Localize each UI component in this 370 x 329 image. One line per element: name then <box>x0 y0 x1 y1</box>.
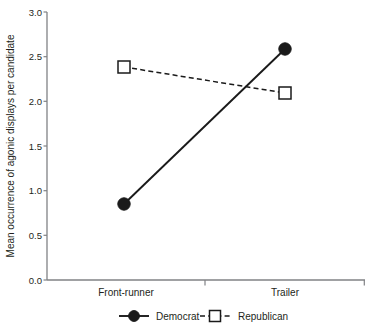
legend-marker-open-square-icon <box>210 311 221 322</box>
series-line-democrat <box>124 49 285 204</box>
line-chart: Mean occurrence of agonic displays per c… <box>0 0 370 329</box>
legend-entry-democrat: Democrat <box>119 311 200 322</box>
series-line-republican <box>124 67 285 93</box>
y-tick-label-0-0: 0.0 <box>29 275 42 286</box>
y-tick-label-0-5: 0.5 <box>29 230 42 241</box>
x-category-label-trailer: Trailer <box>271 287 300 298</box>
y-axis-title: Mean occurrence of agonic displays per c… <box>5 34 16 257</box>
legend-marker-filled-circle-icon <box>129 311 140 322</box>
data-point-republican-front-runner <box>118 61 130 73</box>
x-category-label-front-runner: Front-runner <box>98 287 154 298</box>
data-point-democrat-trailer <box>279 43 291 55</box>
y-tick-label-3-0: 3.0 <box>29 7 42 18</box>
legend-label-democrat: Democrat <box>156 311 200 322</box>
legend-label-republican: Republican <box>238 311 288 322</box>
legend-entry-republican: Republican <box>200 311 288 322</box>
y-tick-label-1-0: 1.0 <box>29 185 42 196</box>
data-point-democrat-front-runner <box>118 198 130 210</box>
data-point-republican-trailer <box>279 87 291 99</box>
x-axis-ticks <box>205 280 364 286</box>
chart-figure: Mean occurrence of agonic displays per c… <box>0 0 370 329</box>
chart-legend: Democrat Republican <box>119 311 288 322</box>
y-tick-label-1-5: 1.5 <box>29 141 42 152</box>
y-tick-label-2-5: 2.5 <box>29 51 42 62</box>
y-tick-label-2-0: 2.0 <box>29 96 42 107</box>
